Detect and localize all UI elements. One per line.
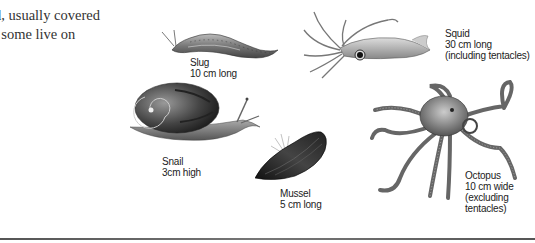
mussel-caption: Mussel 5 cm long: [280, 188, 322, 210]
body-text-line-2: , some live on: [0, 25, 154, 44]
octopus-note-1: (excluding: [465, 192, 514, 203]
slug-name: Slug: [190, 57, 237, 68]
squid-name: Squid: [445, 28, 530, 39]
mussel-size: 5 cm long: [280, 199, 322, 210]
octopus-note-2: tentacles): [465, 203, 514, 214]
octopus-size: 10 cm wide: [465, 181, 514, 192]
snail-name: Snail: [162, 156, 201, 167]
mussel-name: Mussel: [280, 188, 322, 199]
squid-caption: Squid 30 cm long (including tentacles): [445, 28, 530, 61]
mussel-illustration: [255, 120, 335, 182]
snail-size: 3cm high: [162, 167, 201, 178]
squid-illustration: [300, 10, 440, 80]
slug-caption: Slug 10 cm long: [190, 57, 237, 79]
body-text-line-1: d, usually covered: [0, 6, 154, 25]
octopus-name: Octopus: [465, 170, 514, 181]
octopus-caption: Octopus 10 cm wide (excluding tentacles): [465, 170, 514, 214]
slug-size: 10 cm long: [190, 68, 237, 79]
horizontal-rule: [0, 238, 535, 240]
body-text: d, usually covered , some live on: [0, 0, 154, 44]
snail-illustration: [125, 82, 270, 147]
squid-note: (including tentacles): [445, 50, 530, 61]
squid-size: 30 cm long: [445, 39, 530, 50]
snail-caption: Snail 3cm high: [162, 156, 201, 178]
